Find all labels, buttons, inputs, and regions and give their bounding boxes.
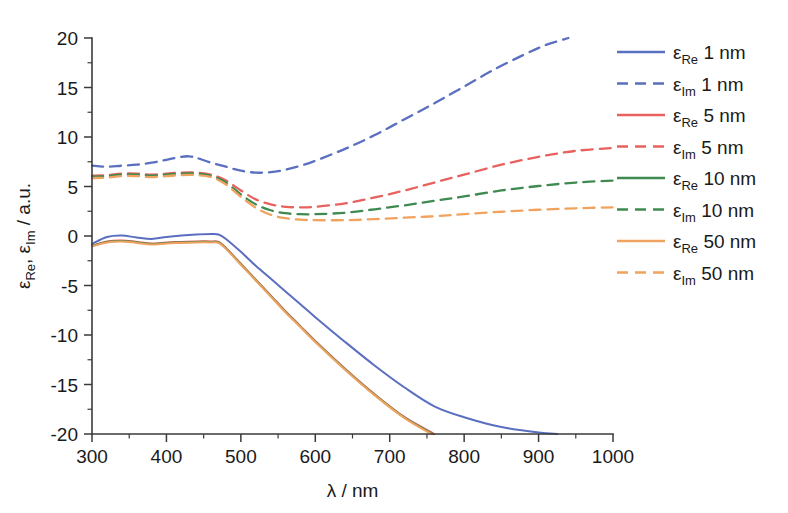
x-axis-title: λ / nm [327, 480, 379, 501]
legend-label: εIm 50 nm [673, 263, 754, 288]
series-path-green-solid [92, 241, 433, 434]
y-tick-label: 0 [67, 226, 78, 247]
x-tick-label: 800 [448, 446, 480, 467]
series-path-orange-dashed [92, 175, 613, 220]
y-tick-label: 15 [57, 78, 78, 99]
series-layer [92, 38, 613, 434]
x-tick-label: 500 [225, 446, 257, 467]
chart-figure: 300400500600700800900100020151050-5-10-1… [0, 0, 788, 513]
legend-label: εRe 10 nm [673, 168, 756, 193]
series-path-blue-solid [92, 234, 557, 434]
series-path-blue-dashed [92, 38, 568, 173]
x-tick-label: 700 [374, 446, 406, 467]
y-axis-title: εRe, εIm / a.u. [13, 183, 38, 289]
y-tick-label: 5 [67, 177, 78, 198]
legend-label: εIm 1 nm [673, 74, 743, 99]
x-tick-label: 300 [76, 446, 108, 467]
legend-label: εIm 5 nm [673, 137, 743, 162]
chart-legend: εRe 1 nmεIm 1 nmεRe 5 nmεIm 5 nmεRe 10 n… [617, 42, 756, 288]
chart-canvas: 300400500600700800900100020151050-5-10-1… [0, 0, 788, 513]
axes-layer [84, 38, 613, 442]
y-tick-label: -15 [51, 375, 78, 396]
x-tick-label: 400 [151, 446, 183, 467]
legend-label: εRe 50 nm [673, 231, 756, 256]
series-path-red-solid [92, 240, 434, 434]
y-tick-label: -5 [61, 276, 78, 297]
y-tick-label: -10 [51, 325, 78, 346]
series-path-red-dashed [92, 148, 613, 207]
series-path-green-dashed [92, 173, 613, 214]
y-tick-label: 20 [57, 28, 78, 49]
legend-label: εIm 10 nm [673, 200, 754, 225]
y-tick-label: -20 [51, 424, 78, 445]
y-tick-label: 10 [57, 127, 78, 148]
legend-label: εRe 1 nm [673, 42, 746, 67]
tick-labels-layer: 300400500600700800900100020151050-5-10-1… [51, 28, 635, 467]
legend-label: εRe 5 nm [673, 105, 746, 130]
x-tick-label: 900 [523, 446, 555, 467]
plot-area: 300400500600700800900100020151050-5-10-1… [51, 28, 635, 467]
x-tick-label: 600 [299, 446, 331, 467]
x-tick-label: 1000 [592, 446, 634, 467]
